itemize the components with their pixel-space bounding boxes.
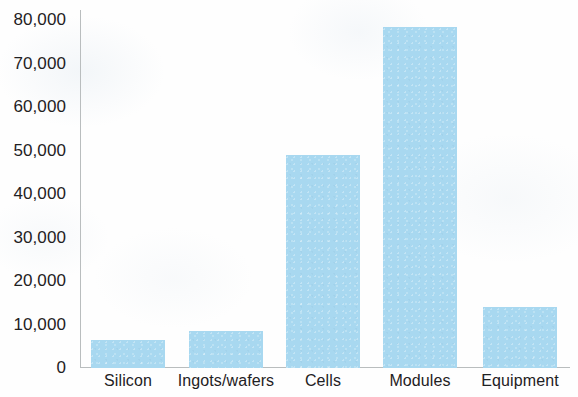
y-axis-tick-label: 60,000 — [13, 97, 66, 117]
bar — [189, 331, 263, 368]
y-axis-tick-label: 20,000 — [13, 271, 66, 291]
y-axis-tick-label: 50,000 — [13, 141, 66, 161]
y-axis-tick-label: 70,000 — [13, 54, 66, 74]
x-axis-tick-label: Silicon — [104, 372, 152, 390]
x-axis-tick-labels: SiliconIngots/wafersCellsModulesEquipmen… — [0, 372, 578, 397]
bar-chart: 010,00020,00030,00040,00050,00060,00070,… — [0, 0, 578, 397]
x-axis-tick-label: Equipment — [481, 372, 558, 390]
bar — [383, 27, 457, 368]
y-axis-tick-label: 80,000 — [13, 10, 66, 30]
y-axis-tick-label: 10,000 — [13, 315, 66, 335]
y-axis-tick-label: 40,000 — [13, 184, 66, 204]
x-axis-tick-label: Modules — [389, 372, 450, 390]
x-axis-tick-label: Cells — [305, 372, 341, 390]
y-axis-tick-label: 30,000 — [13, 228, 66, 248]
x-axis-tick-label: Ingots/wafers — [178, 372, 274, 390]
bar — [286, 155, 360, 368]
y-axis-tick-labels: 010,00020,00030,00040,00050,00060,00070,… — [0, 0, 72, 397]
bar — [483, 307, 557, 368]
plot-area — [80, 20, 570, 368]
bar — [91, 340, 165, 368]
